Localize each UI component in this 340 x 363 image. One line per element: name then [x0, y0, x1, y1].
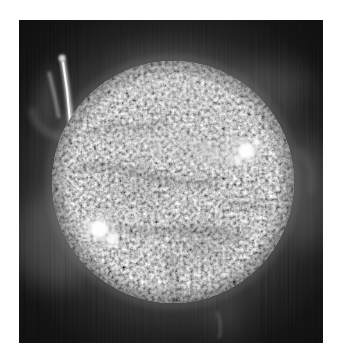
sun-photograph: [19, 20, 323, 343]
page-background: [0, 0, 340, 363]
vignette: [19, 20, 323, 343]
sun-photo-canvas: [19, 20, 323, 343]
